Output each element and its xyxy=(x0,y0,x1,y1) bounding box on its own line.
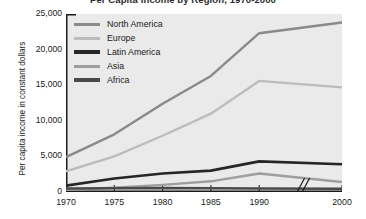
series-line xyxy=(66,81,342,171)
legend-label: Africa xyxy=(107,76,130,85)
legend-swatch-icon xyxy=(74,50,100,53)
legend-label: Latin America xyxy=(107,48,160,57)
x-tick-label: 1985 xyxy=(189,197,233,207)
legend-label: North America xyxy=(107,20,163,29)
chart-legend: North AmericaEuropeLatin AmericaAsiaAfri… xyxy=(74,17,204,87)
x-tick-label: 1980 xyxy=(141,197,185,207)
legend-item[interactable]: Africa xyxy=(74,73,204,87)
x-tick-label: 1975 xyxy=(92,197,136,207)
legend-item[interactable]: Latin America xyxy=(74,45,204,59)
legend-label: Asia xyxy=(107,62,124,71)
legend-swatch-icon xyxy=(74,37,100,40)
x-tick-label: 1990 xyxy=(237,197,281,207)
legend-item[interactable]: Asia xyxy=(74,59,204,73)
chart-figure: Per Capita Income by Region, 1970-2000 P… xyxy=(0,0,366,219)
x-tick-label: 1970 xyxy=(44,197,88,207)
legend-item[interactable]: Europe xyxy=(74,31,204,45)
legend-swatch-icon xyxy=(74,78,100,81)
legend-swatch-icon xyxy=(74,65,100,68)
legend-label: Europe xyxy=(107,34,135,43)
legend-item[interactable]: North America xyxy=(74,17,204,31)
legend-swatch-icon xyxy=(74,23,100,26)
x-tick-label: 2000 xyxy=(320,197,364,207)
series-line xyxy=(66,188,342,189)
